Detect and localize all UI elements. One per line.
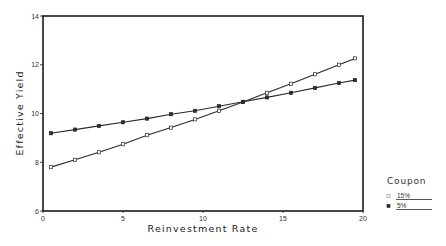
- x-tick-label: 5: [121, 215, 125, 222]
- plot-frame: [43, 16, 363, 211]
- series-line: [51, 80, 355, 133]
- open-square-marker: [193, 118, 196, 121]
- open-square-marker: [97, 151, 100, 154]
- legend-entry-label: 5%: [397, 202, 407, 209]
- open-square-marker: [169, 126, 172, 129]
- filled-square-marker: [49, 132, 52, 135]
- y-tick-label: 6: [35, 208, 39, 215]
- open-square-marker: [265, 91, 268, 94]
- y-tick-label: 12: [31, 61, 39, 68]
- filled-square-marker: [145, 117, 148, 120]
- open-square-marker: [337, 63, 340, 66]
- series-line: [51, 58, 355, 167]
- x-tick-label: 15: [279, 215, 287, 222]
- open-square-marker: [217, 109, 220, 112]
- x-axis-title: Reinvestment Rate: [148, 223, 259, 234]
- filled-square-marker: [73, 128, 76, 131]
- open-square-marker: [289, 82, 292, 85]
- open-square-marker: [313, 73, 316, 76]
- filled-square-marker: [289, 91, 292, 94]
- filled-square-marker: [337, 81, 340, 84]
- y-axis: 68101214: [31, 13, 43, 215]
- open-square-marker: [121, 143, 124, 146]
- open-square-marker: [49, 166, 52, 169]
- filled-square-marker: [241, 100, 244, 103]
- open-square-marker: [145, 134, 148, 137]
- filled-square-marker: [313, 86, 316, 89]
- y-tick-label: 8: [35, 159, 39, 166]
- filled-square-marker: [97, 124, 100, 127]
- x-tick-label: 20: [359, 215, 367, 222]
- series-5pct: [49, 79, 356, 135]
- legend: Coupon 15%5%: [387, 176, 432, 210]
- x-tick-label: 0: [41, 215, 45, 222]
- y-axis-title: Effective Yield: [14, 70, 25, 155]
- x-tick-label: 10: [199, 215, 207, 222]
- plot-border: [43, 16, 363, 211]
- legend-filled-marker-icon: [387, 205, 390, 208]
- open-square-marker: [353, 57, 356, 60]
- legend-title: Coupon: [387, 176, 426, 186]
- x-axis: 05101520: [41, 211, 367, 222]
- y-tick-label: 14: [31, 13, 39, 20]
- y-tick-label: 10: [31, 110, 39, 117]
- filled-square-marker: [353, 79, 356, 82]
- filled-square-marker: [193, 109, 196, 112]
- line-chart: 68101214 05101520 Reinvestment Rate Effe…: [0, 0, 446, 246]
- filled-square-marker: [169, 113, 172, 116]
- series-15pct: [49, 57, 356, 169]
- filled-square-marker: [265, 96, 268, 99]
- open-square-marker: [73, 158, 76, 161]
- series-layer: [49, 57, 356, 169]
- legend-entry-label: 15%: [397, 192, 410, 199]
- legend-open-marker-icon: [387, 195, 390, 198]
- filled-square-marker: [121, 121, 124, 124]
- filled-square-marker: [217, 105, 220, 108]
